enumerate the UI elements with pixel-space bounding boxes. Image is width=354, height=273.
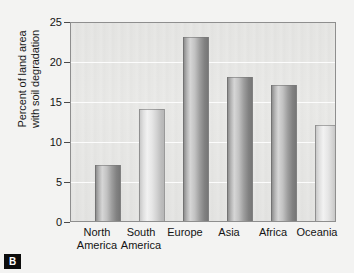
y-tick-label-10: 10 — [36, 137, 62, 148]
bar-asia — [227, 77, 253, 221]
y-tick-label-25: 25 — [36, 17, 62, 28]
y-tick-label-0: 0 — [36, 217, 62, 228]
panel-letter-badge: B — [4, 254, 21, 269]
x-tick-label-line-1: Oceania — [285, 226, 349, 239]
y-tick-label-5: 5 — [36, 177, 62, 188]
plot-area — [70, 22, 336, 222]
figure-canvas: Percent of land area with soil degradati… — [0, 0, 354, 273]
y-axis-label-line-1: Percent of land area — [16, 30, 29, 127]
y-tick-label-15: 15 — [36, 97, 62, 108]
bar-europe — [183, 37, 209, 221]
x-tick-label-line-2: America — [111, 239, 171, 252]
x-tick-label-oceania: Oceania — [285, 226, 349, 239]
panel-letter: B — [9, 257, 16, 267]
bar-north-america — [95, 165, 121, 221]
bar-south-america — [139, 109, 165, 221]
bar-oceania — [315, 125, 336, 221]
y-tick-mark — [64, 222, 70, 223]
y-tick-label-20: 20 — [36, 57, 62, 68]
y-axis-label-line-2: with soil degradation — [29, 30, 42, 128]
bar-africa — [271, 85, 297, 221]
